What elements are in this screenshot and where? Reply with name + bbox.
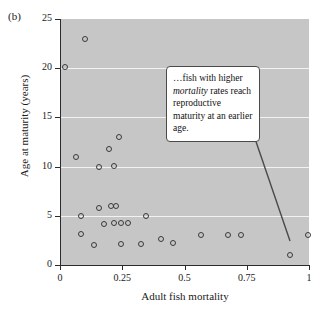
y-axis-line [60, 19, 61, 266]
gridline [60, 216, 309, 217]
data-point [91, 242, 97, 248]
x-tick-label: 0 [58, 272, 63, 283]
data-point [198, 232, 204, 238]
data-point [118, 241, 124, 247]
x-tick-mark [309, 265, 310, 270]
data-point [287, 252, 293, 258]
data-point [62, 64, 68, 70]
x-tick-mark [122, 265, 123, 270]
data-point [138, 241, 144, 247]
data-point [106, 146, 112, 152]
annotation-callout: …fish with higher mortality rates reach … [166, 66, 260, 142]
y-tick-mark [55, 68, 60, 69]
data-point [96, 164, 102, 170]
data-point [118, 220, 124, 226]
annotation-text-part1: …fish with higher [173, 73, 243, 83]
y-tick-mark [55, 167, 60, 168]
x-axis-title: Adult fish mortality [60, 290, 310, 302]
data-point [170, 240, 176, 246]
data-point [73, 154, 79, 160]
y-axis-title: Age at maturity (years) [18, 36, 30, 216]
data-point [158, 236, 164, 242]
annotation-text-emphasis: mortality [173, 86, 208, 96]
x-tick-mark [60, 265, 61, 270]
y-tick-mark [55, 117, 60, 118]
data-point [78, 213, 84, 219]
scatter-plot-area [60, 19, 309, 265]
data-point [238, 232, 244, 238]
data-point [125, 220, 131, 226]
panel-label: (b) [8, 10, 21, 22]
data-point [305, 232, 311, 238]
x-tick-label: 0.75 [238, 272, 256, 283]
y-tick-mark [55, 216, 60, 217]
figure-panel-b: (b) 0510152025 00.250.50.751 Adult fish … [0, 0, 321, 314]
data-point [225, 232, 231, 238]
y-tick-mark [55, 19, 60, 20]
data-point [111, 163, 117, 169]
data-point [113, 203, 119, 209]
x-tick-mark [185, 265, 186, 270]
data-point [96, 205, 102, 211]
data-point [101, 221, 107, 227]
x-tick-label: 0.25 [114, 272, 132, 283]
data-point [82, 36, 88, 42]
x-tick-label: 0.5 [178, 272, 191, 283]
data-point [78, 231, 84, 237]
x-tick-label: 1 [307, 272, 312, 283]
x-tick-mark [247, 265, 248, 270]
y-tick-label: 0 [26, 258, 52, 269]
data-point [143, 213, 149, 219]
data-point [111, 220, 117, 226]
data-point [116, 134, 122, 140]
y-tick-label: 25 [26, 12, 52, 23]
